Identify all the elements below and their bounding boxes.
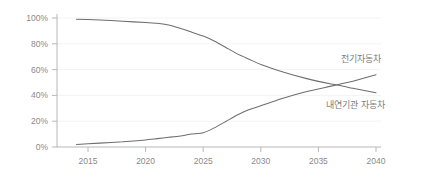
x-axis-label-2015: 2015 bbox=[79, 156, 98, 166]
y-axis-label-100: 100% bbox=[26, 13, 48, 23]
y-axis-label-20: 20% bbox=[31, 116, 48, 126]
y-axis-label-0: 0% bbox=[36, 142, 49, 152]
x-axis-label-2035: 2035 bbox=[309, 156, 328, 166]
y-axis-label-40: 40% bbox=[31, 90, 48, 100]
series-labels: 전기자동차 내연기관 자동차 bbox=[326, 53, 386, 110]
ice-series-label: 내연기관 자동차 bbox=[326, 99, 386, 110]
y-axis-label-80: 80% bbox=[31, 39, 48, 49]
y-axis-labels: 100% 80% 60% 40% 20% 0% bbox=[26, 13, 48, 152]
y-tick-marks bbox=[52, 18, 57, 147]
x-axis-label-2030: 2030 bbox=[251, 156, 270, 166]
x-axis-label-2040: 2040 bbox=[367, 156, 386, 166]
x-axis-label-2025: 2025 bbox=[194, 156, 213, 166]
y-axis-label-60: 60% bbox=[31, 65, 48, 75]
x-tick-marks bbox=[88, 147, 376, 152]
chart-canvas: 100% 80% 60% 40% 20% 0% 2015 2020 2025 2… bbox=[0, 0, 423, 182]
line-chart: 100% 80% 60% 40% 20% 0% 2015 2020 2025 2… bbox=[0, 0, 423, 182]
x-axis-label-2020: 2020 bbox=[136, 156, 155, 166]
axes bbox=[57, 14, 381, 147]
series-line-ice bbox=[76, 19, 376, 93]
series-lines bbox=[76, 19, 376, 144]
x-axis-labels: 2015 2020 2025 2030 2035 2040 bbox=[79, 156, 386, 166]
ev-series-label: 전기자동차 bbox=[341, 53, 382, 64]
